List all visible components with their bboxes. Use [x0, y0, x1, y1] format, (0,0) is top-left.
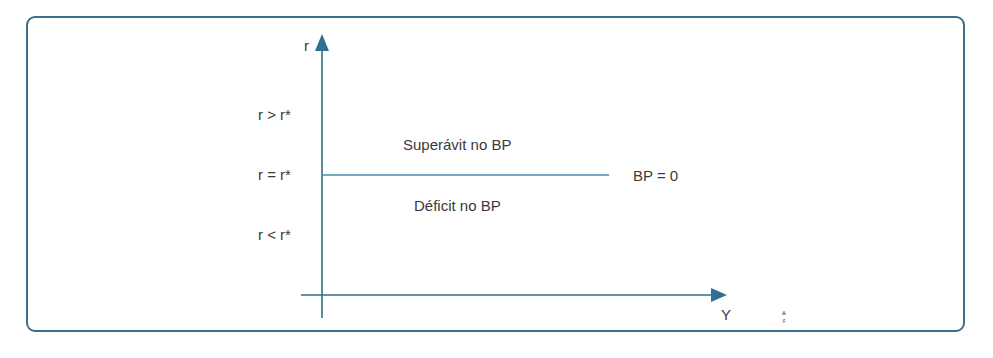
x-axis-label: Y — [721, 307, 731, 322]
deficit-region-label: Déficit no BP — [414, 198, 501, 213]
y-axis-label: r — [304, 38, 309, 53]
bp-curve-label: BP = 0 — [633, 168, 678, 183]
x-axis-arrow-icon — [711, 288, 727, 302]
bp-diagram-plot — [0, 0, 993, 358]
stray-mark: ؞ٍ — [781, 310, 787, 321]
y-axis-arrow-icon — [315, 34, 329, 51]
y-tick-above: r > r* — [258, 107, 291, 122]
surplus-region-label: Superávit no BP — [403, 137, 511, 152]
y-tick-below: r < r* — [258, 227, 291, 242]
y-tick-equal: r = r* — [258, 167, 291, 182]
